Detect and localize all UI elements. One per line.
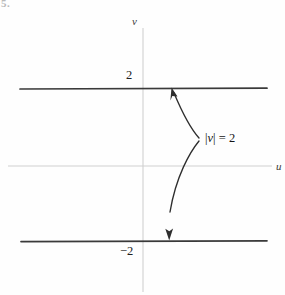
leader-curve-lower [170, 141, 199, 212]
leader-curve-upper [174, 93, 199, 138]
line-v-equals-negative-2 [21, 241, 267, 242]
plot-canvas [0, 0, 285, 295]
arrowhead-lower [165, 229, 173, 241]
figure-container: 5. v u 2 −2 |v| = 2 [0, 0, 285, 295]
line-v-equals-2 [20, 88, 267, 89]
